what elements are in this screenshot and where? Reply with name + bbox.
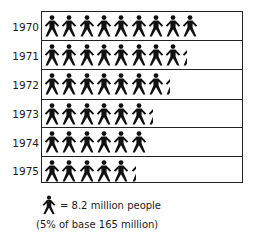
legend-note: (5% of base 165 million) xyxy=(36,219,158,230)
partial-person-icon xyxy=(148,103,153,125)
person-icon xyxy=(96,103,112,125)
pictograph-box xyxy=(41,11,243,183)
person-icon xyxy=(61,131,77,153)
person-icon xyxy=(61,73,77,95)
person-icon xyxy=(148,15,164,37)
person-icon xyxy=(44,15,60,37)
person-icon xyxy=(79,73,95,95)
person-icon xyxy=(79,103,95,125)
year-label: 1971 xyxy=(8,50,39,62)
person-icon xyxy=(113,15,129,37)
person-icon xyxy=(182,15,198,37)
year-label: 1970 xyxy=(8,21,39,33)
person-icon xyxy=(131,103,147,125)
person-icon xyxy=(148,73,164,95)
row-1975 xyxy=(42,156,242,183)
row-1974 xyxy=(42,127,242,156)
partial-person-icon xyxy=(165,73,170,95)
person-icon xyxy=(131,15,147,37)
person-icon xyxy=(96,160,112,182)
row-1971 xyxy=(42,40,242,69)
row-1973 xyxy=(42,99,242,127)
person-icon xyxy=(44,73,60,95)
person-icon xyxy=(79,160,95,182)
person-icon xyxy=(44,131,60,153)
person-icon xyxy=(113,131,129,153)
year-label: 1974 xyxy=(8,137,39,149)
person-icon xyxy=(131,73,147,95)
year-label: 1972 xyxy=(8,79,39,91)
person-icon xyxy=(61,44,77,66)
person-icon xyxy=(131,131,147,153)
person-icon xyxy=(96,44,112,66)
person-icon xyxy=(131,44,147,66)
person-icon xyxy=(44,160,60,182)
year-label: 1973 xyxy=(8,108,39,120)
row-1970 xyxy=(42,12,242,40)
person-icon xyxy=(79,44,95,66)
person-icon xyxy=(79,131,95,153)
legend-person-icon xyxy=(42,195,56,215)
year-label: 1975 xyxy=(8,165,39,177)
partial-person-icon xyxy=(182,44,187,66)
person-icon xyxy=(96,131,112,153)
person-icon xyxy=(61,103,77,125)
person-icon xyxy=(96,15,112,37)
person-icon xyxy=(165,15,181,37)
person-icon xyxy=(44,44,60,66)
person-icon xyxy=(165,44,181,66)
person-icon xyxy=(113,44,129,66)
person-icon xyxy=(113,103,129,125)
partial-person-icon xyxy=(131,160,136,182)
row-1972 xyxy=(42,69,242,99)
person-icon xyxy=(44,103,60,125)
person-icon xyxy=(113,73,129,95)
person-icon xyxy=(79,15,95,37)
legend-text: = 8.2 million people xyxy=(60,200,161,211)
person-icon xyxy=(148,44,164,66)
person-icon xyxy=(61,15,77,37)
person-icon xyxy=(61,160,77,182)
person-icon xyxy=(96,73,112,95)
person-icon xyxy=(113,160,129,182)
